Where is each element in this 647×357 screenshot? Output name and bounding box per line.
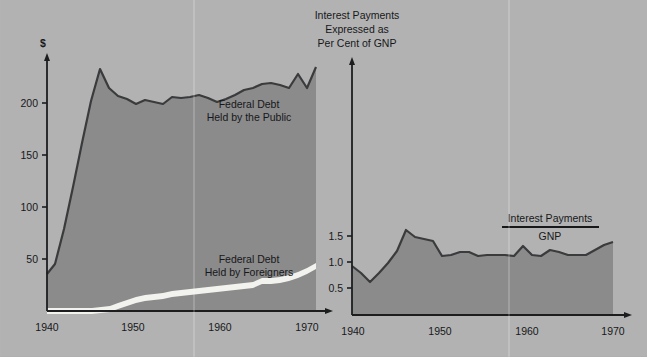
annotation-foreign-debt-line1: Federal Debt	[219, 253, 280, 265]
left-chart-xtick-label-1940: 1940	[35, 321, 59, 333]
annotation-public-debt-line1: Federal Debt	[219, 98, 280, 110]
right-chart-xtick-label-1960: 1960	[515, 325, 539, 337]
left-chart-xtick-label-1970: 1970	[295, 321, 319, 333]
right-chart-ytick-label-1-0: 1.0	[328, 256, 343, 268]
left-chart-ytick-label-50: 50	[26, 253, 38, 265]
left-chart-y-unit-label: $	[40, 37, 46, 49]
right-chart-title-line3: Per Cent of GNP	[318, 37, 397, 49]
left-chart-ytick-label-200: 200	[20, 97, 38, 109]
fraction-denominator-label: GNP	[539, 230, 562, 242]
right-chart-ytick-label-1-5: 1.5	[328, 230, 343, 242]
right-chart-xtick-label-1950: 1950	[428, 325, 452, 337]
right-chart-title-line2: Expressed as	[325, 23, 389, 35]
annotation-public-debt-line2: Held by the Public	[207, 111, 292, 123]
two-panel-chart-figure: $ 200 150 100 50 1940 1950 1960 1970 Fed…	[0, 0, 647, 357]
left-chart-ytick-label-100: 100	[20, 201, 38, 213]
left-chart-xtick-label-1950: 1950	[121, 321, 145, 333]
right-chart-ytick-label-0-5: 0.5	[328, 282, 343, 294]
annotation-foreign-debt-line2: Held by Foreigners	[205, 266, 294, 278]
right-chart-title-line1: Interest Payments	[315, 9, 400, 21]
right-chart-xtick-label-1940: 1940	[341, 325, 365, 337]
left-chart-ytick-label-150: 150	[20, 149, 38, 161]
right-chart-xtick-label-1970: 1970	[601, 325, 625, 337]
fraction-numerator-label: Interest Payments	[508, 212, 593, 224]
left-chart-xtick-label-1960: 1960	[208, 321, 232, 333]
